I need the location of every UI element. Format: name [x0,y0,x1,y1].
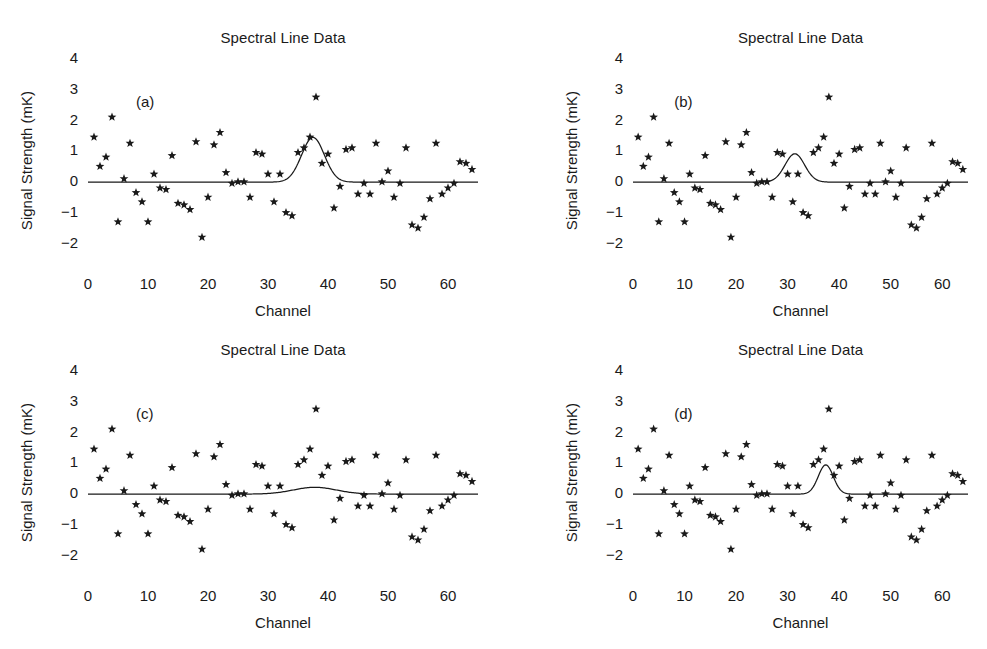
data-point-star [953,471,962,479]
x-tick-label: 10 [676,587,693,604]
data-point-star [948,469,957,477]
y-tick-label: 4 [583,361,623,378]
data-point-star [778,461,787,469]
data-point-star [690,495,699,503]
figure-canvas: Spectral Line DataSignal Strength (mK)Ch… [0,0,987,649]
data-point-star [835,461,844,469]
data-point-star [685,482,694,490]
x-tick-label: 0 [629,587,637,604]
data-point-star [665,451,674,459]
data-point-star [855,455,864,463]
plot-area [632,368,969,578]
data-point-star [881,489,890,497]
data-point-star [742,440,751,448]
axes-frame [633,369,968,577]
data-point-star [871,502,880,510]
x-tick-label: 40 [831,587,848,604]
y-tick-label: 1 [583,453,623,470]
data-point-star [897,491,906,499]
data-point-star [819,445,828,453]
y-tick-label: 2 [583,422,623,439]
data-point-star [866,491,875,499]
y-tick-label: 0 [583,484,623,501]
data-point-star [938,495,947,503]
data-point-star [701,463,710,471]
data-point-star [639,474,648,482]
data-point-star [732,505,741,513]
data-point-star [660,486,669,494]
data-point-star [861,502,870,510]
data-point-star [752,491,761,499]
panel-title: Spectral Line Data [633,341,968,358]
data-point-star [634,445,643,453]
data-point-star [824,404,833,412]
data-point-star [644,465,653,473]
data-point-star [845,494,854,502]
data-point-star [773,460,782,468]
data-point-star [809,460,818,468]
x-tick-label: 30 [779,587,796,604]
data-point-star [680,529,689,537]
data-point-star [696,497,705,505]
y-axis-label: Signal Strength (mK) [563,393,580,553]
data-point-star [654,529,663,537]
data-point-star [716,517,725,525]
data-point-star [721,449,730,457]
panel-d: Spectral Line DataSignal Strength (mK)Ch… [0,0,987,649]
data-point-group [634,404,967,553]
data-point-star [917,525,926,533]
data-point-star [876,451,885,459]
data-point-star [649,424,658,432]
axis-ticks [633,369,968,577]
y-tick-label: 3 [583,391,623,408]
data-point-star [814,455,823,463]
data-point-star [928,451,937,459]
x-tick-label: 60 [934,587,951,604]
data-point-star [794,482,803,490]
data-point-star [840,515,849,523]
x-tick-label: 50 [882,587,899,604]
data-point-star [886,478,895,486]
data-point-star [788,509,797,517]
data-point-star [850,457,859,465]
data-point-star [727,545,736,553]
y-tick-label: −1 [583,515,623,532]
data-point-star [675,509,684,517]
data-point-star [711,512,720,520]
data-point-star [747,480,756,488]
x-tick-label: 20 [728,587,745,604]
data-point-star [768,505,777,513]
data-point-star [891,505,900,513]
data-point-star [670,500,679,508]
data-point-star [706,511,715,519]
data-point-star [902,455,911,463]
y-tick-label: −2 [583,545,623,562]
data-point-star [783,482,792,490]
data-point-star [943,491,952,499]
x-axis-label: Channel [633,614,968,631]
data-point-star [922,506,931,514]
data-point-star [737,452,746,460]
